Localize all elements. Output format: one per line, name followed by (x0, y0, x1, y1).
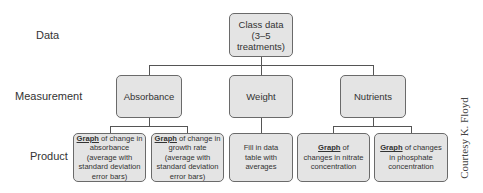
connector-to-weight (261, 65, 262, 75)
product-node-phosphate-graph: Graph of changes in phosphate concentrat… (374, 133, 448, 182)
row-label-product: Product (30, 150, 68, 162)
image-credit: Courtesy K. Floyd (458, 97, 470, 179)
measurement-label: Nutrients (354, 91, 392, 102)
row-label-data: Data (36, 29, 59, 41)
connector-nutrients-down (373, 118, 374, 126)
row-label-measurement: Measurement (15, 90, 82, 102)
product-node-nitrate-graph: Graph of changes in nitrate concentratio… (297, 133, 370, 182)
root-line-3: treatments) (237, 41, 285, 52)
measurement-node-absorbance: Absorbance (116, 75, 182, 118)
product-emphasis: Graph (318, 143, 340, 152)
connector-absorbance-down (149, 118, 150, 126)
product-text: Fill in data table with averages (236, 143, 286, 172)
measurement-node-nutrients: Nutrients (340, 75, 406, 118)
product-node-absorbance-graph: Graph of change in absorbance (average w… (73, 133, 146, 182)
connector-absorbance-horizontal (110, 126, 188, 127)
connector-to-product-4 (333, 126, 334, 133)
connector-to-product-1 (110, 126, 111, 133)
product-text: Graph of change in growth rate (average … (153, 134, 222, 182)
connector-to-nutrients (373, 65, 374, 75)
product-node-weight-table: Fill in data table with averages (229, 133, 293, 182)
measurement-label: Absorbance (124, 91, 175, 102)
measurement-label: Weight (246, 91, 275, 102)
measurement-node-weight: Weight (229, 75, 293, 118)
product-emphasis: Graph (380, 143, 402, 152)
product-text: Graph of change in absorbance (average w… (75, 134, 144, 182)
product-emphasis: Graph (77, 134, 99, 143)
product-description: Fill in data table with averages (244, 143, 279, 171)
connector-to-product-2 (187, 126, 188, 133)
root-node-class-data: Class data (3–5 treatments) (229, 13, 293, 57)
product-text: Graph of changes in nitrate concentratio… (303, 143, 364, 172)
connector-to-product-5 (411, 126, 412, 133)
product-text: Graph of changes in phosphate concentrat… (379, 143, 443, 172)
product-emphasis: Graph (155, 134, 177, 143)
connector-to-absorbance (149, 65, 150, 75)
connector-weight-down (261, 118, 262, 133)
root-line-2: (3–5 (251, 30, 270, 41)
connector-nutrients-horizontal (333, 126, 412, 127)
product-node-growth-rate-graph: Graph of change in growth rate (average … (151, 133, 224, 182)
root-line-1: Class data (239, 19, 284, 30)
